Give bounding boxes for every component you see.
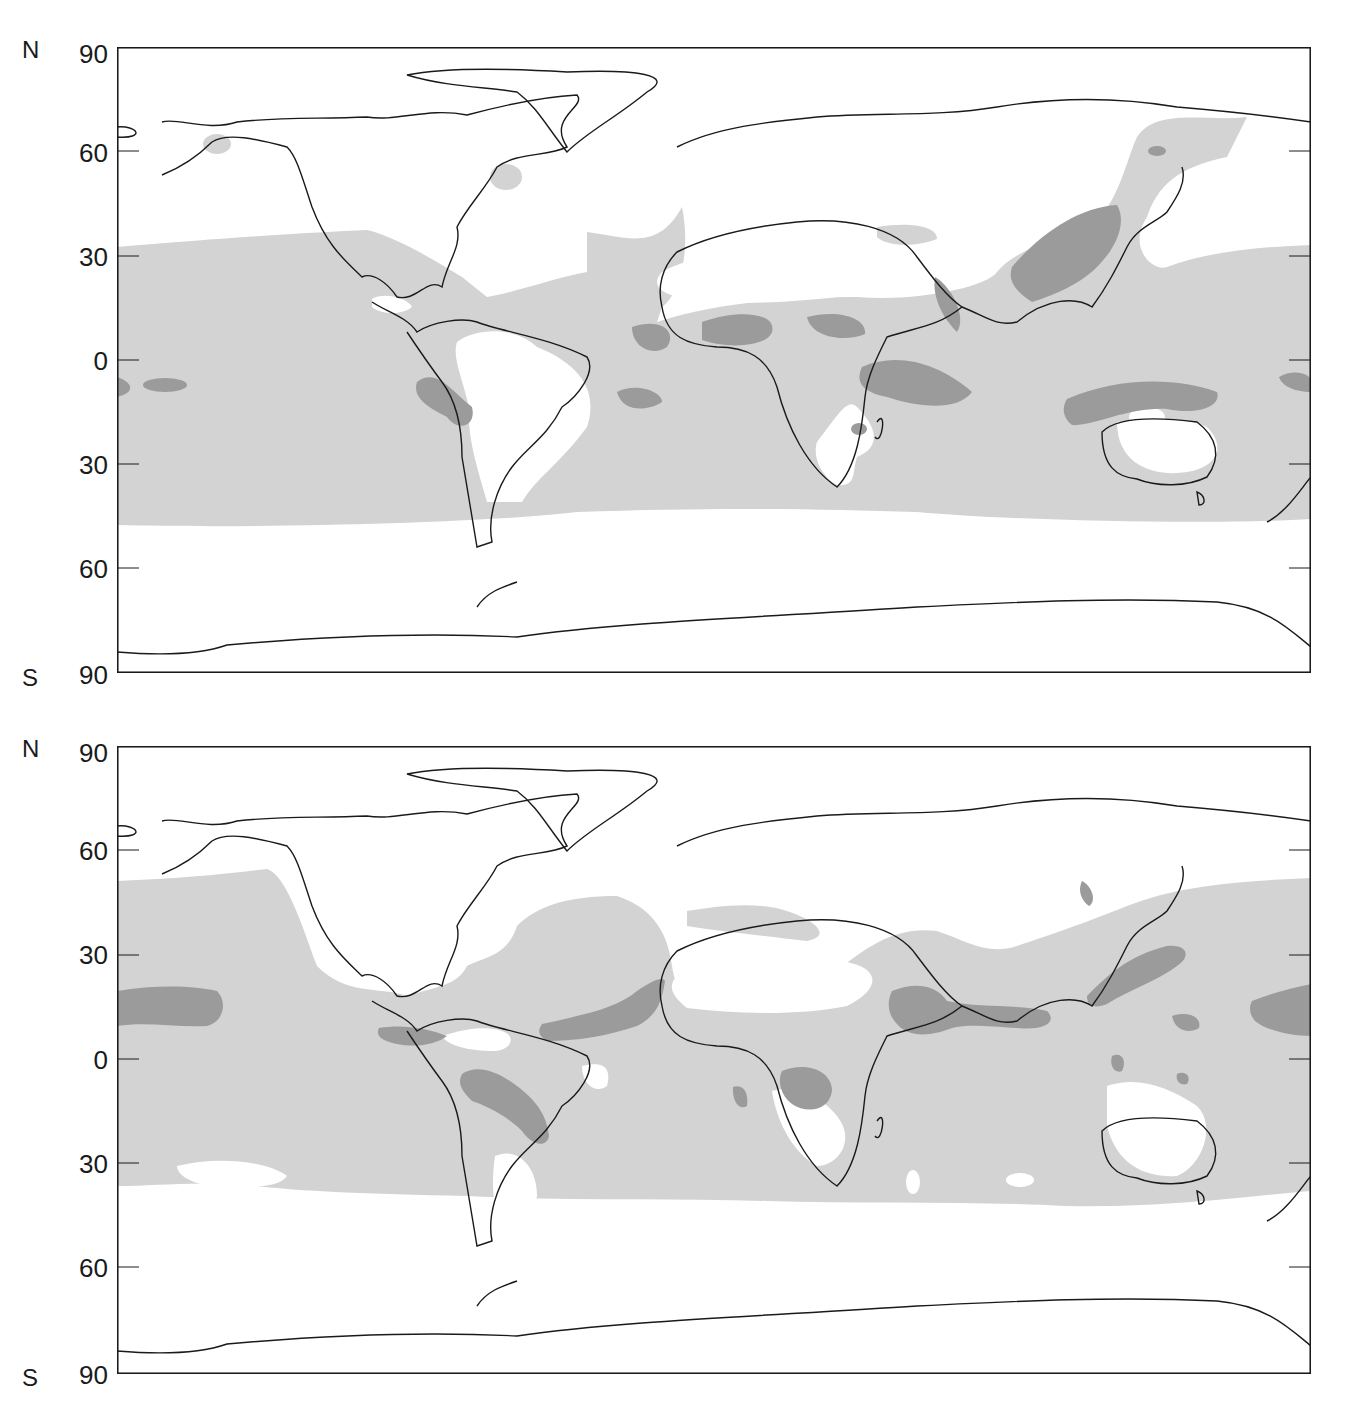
bottom-map-panel: N 90 60 30 0 30 60 S 90	[0, 700, 1349, 1406]
bottom-world-map	[117, 746, 1311, 1374]
north-label: N	[22, 38, 39, 62]
south-label: S	[22, 666, 38, 690]
lat-tick-label: 30	[38, 244, 108, 270]
lat-tick-label: 60	[38, 140, 108, 166]
south-label: S	[22, 1366, 38, 1390]
lat-tick-label: 60	[38, 556, 108, 582]
lat-tick-label: 90	[38, 1362, 108, 1388]
north-label: N	[22, 737, 39, 761]
lat-tick-label: 0	[38, 348, 108, 374]
lat-tick-label: 90	[38, 662, 108, 688]
lat-tick-label: 60	[38, 1255, 108, 1281]
lat-tick-label: 30	[38, 942, 108, 968]
lat-tick-label: 60	[38, 838, 108, 864]
lat-tick-label: 30	[38, 1151, 108, 1177]
lat-tick-label: 0	[38, 1047, 108, 1073]
lat-tick-label: 90	[38, 41, 108, 67]
lat-tick-label: 90	[38, 740, 108, 766]
top-map-panel: N 90 60 30 0 30 60 S 90	[0, 0, 1349, 700]
top-world-map	[117, 47, 1311, 673]
lat-tick-label: 30	[38, 452, 108, 478]
